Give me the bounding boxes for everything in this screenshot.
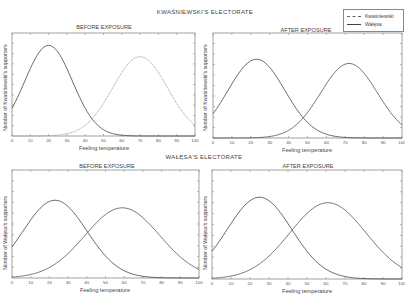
x-tick-label: 10 <box>28 138 33 143</box>
subplot-2: 0102030405060708090100 <box>11 170 203 285</box>
x-tick-label: 90 <box>178 280 183 285</box>
x-tick-label: 30 <box>267 140 272 145</box>
x-tick-label: 100 <box>195 280 203 285</box>
x-tick-label: 50 <box>103 280 108 285</box>
x-tick-label: 100 <box>398 281 405 286</box>
x-tick-label: 40 <box>286 281 291 286</box>
x-tick-label: 60 <box>324 281 329 286</box>
curve-kwaniewski <box>12 208 199 277</box>
x-tick-label: 0 <box>11 280 14 285</box>
x-tick-label: 70 <box>343 140 348 145</box>
axes-frame <box>12 33 195 136</box>
x-tick-label: 20 <box>248 281 253 286</box>
x-tick-label: 80 <box>156 138 161 143</box>
axes-frame <box>212 170 402 279</box>
curve-wasa <box>212 197 402 279</box>
x-tick-label: 100 <box>398 140 405 145</box>
x-tick-label: 50 <box>101 138 106 143</box>
x-tick-label: 60 <box>324 140 329 145</box>
subplot-3: 0102030405060708090100 <box>211 170 405 286</box>
x-tick-label: 70 <box>138 138 143 143</box>
x-tick-label: 40 <box>84 280 89 285</box>
x-tick-label: 0 <box>212 140 215 145</box>
x-tick-label: 10 <box>229 140 234 145</box>
x-tick-label: 10 <box>229 281 234 286</box>
x-tick-label: 30 <box>66 280 71 285</box>
x-tick-label: 90 <box>381 140 386 145</box>
x-tick-label: 30 <box>267 281 272 286</box>
x-tick-label: 30 <box>64 138 69 143</box>
subplot-0: 0102030405060708090100 <box>11 33 199 143</box>
x-tick-label: 20 <box>248 140 253 145</box>
curve-kwaniewski <box>12 57 195 136</box>
axes-frame <box>12 170 199 278</box>
x-tick-label: 100 <box>191 138 199 143</box>
curve-kwaniewski <box>213 63 402 138</box>
x-tick-label: 40 <box>83 138 88 143</box>
x-tick-label: 0 <box>11 138 14 143</box>
x-tick-label: 10 <box>28 280 33 285</box>
x-tick-label: 70 <box>343 281 348 286</box>
x-tick-label: 80 <box>159 280 164 285</box>
x-tick-label: 60 <box>122 280 127 285</box>
x-tick-label: 20 <box>47 280 52 285</box>
x-tick-label: 80 <box>362 140 367 145</box>
x-tick-label: 20 <box>46 138 51 143</box>
curve-kwaniewski <box>212 203 402 279</box>
x-tick-label: 90 <box>174 138 179 143</box>
curve-wasa <box>12 45 195 136</box>
curve-wasa <box>213 59 402 138</box>
x-tick-label: 70 <box>140 280 145 285</box>
x-tick-label: 90 <box>381 281 386 286</box>
curve-wasa <box>12 200 199 278</box>
x-tick-label: 50 <box>305 140 310 145</box>
x-tick-label: 50 <box>305 281 310 286</box>
x-tick-label: 60 <box>119 138 124 143</box>
x-tick-label: 0 <box>211 281 214 286</box>
plot-area: 0102030405060708090100010203040506070809… <box>0 0 405 297</box>
subplot-1: 0102030405060708090100 <box>212 33 405 145</box>
x-tick-label: 40 <box>286 140 291 145</box>
x-tick-label: 80 <box>362 281 367 286</box>
